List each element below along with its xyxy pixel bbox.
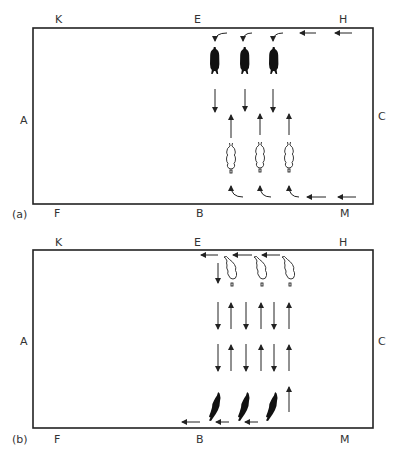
turn-arrow-icon xyxy=(289,186,299,197)
panel-caption: (b) xyxy=(12,433,28,446)
light-rider-icon xyxy=(285,142,294,172)
marker-k: K xyxy=(55,13,63,26)
dark-rider-icon xyxy=(210,47,219,74)
turn-arrow-icon xyxy=(231,186,243,197)
marker-b: B xyxy=(196,433,204,446)
panel-caption: (a) xyxy=(12,208,27,221)
dark-rider-icon xyxy=(269,47,278,74)
marker-c: C xyxy=(378,110,386,123)
marker-c: C xyxy=(378,335,386,348)
turn-arrow-icon xyxy=(260,186,271,197)
marker-e: E xyxy=(194,13,201,26)
marker-f: F xyxy=(54,433,60,446)
light-rider-icon xyxy=(224,257,237,287)
panel-a: K E H A C F B M (a) xyxy=(12,13,386,221)
arena-diagram: K E H A C F B M (a) xyxy=(0,0,400,462)
arena-frame xyxy=(33,28,373,204)
marker-a: A xyxy=(20,114,28,127)
marker-b: B xyxy=(196,207,204,220)
turn-arrow-icon xyxy=(273,33,283,41)
marker-h: H xyxy=(339,13,347,26)
light-rider-icon xyxy=(282,257,295,287)
dark-rider-icon xyxy=(209,392,221,421)
marker-a: A xyxy=(20,335,28,348)
light-rider-icon xyxy=(256,142,265,172)
dark-rider-icon xyxy=(266,392,278,421)
turn-arrow-icon xyxy=(215,33,227,41)
arena-frame xyxy=(33,250,373,428)
marker-e: E xyxy=(194,236,201,249)
panel-b: K E H A C F B M (b) xyxy=(12,236,386,446)
marker-f: F xyxy=(54,207,60,220)
turn-arrow-icon xyxy=(243,33,252,41)
marker-h: H xyxy=(339,236,347,249)
marker-k: K xyxy=(55,236,63,249)
dark-rider-icon xyxy=(240,47,249,74)
dark-rider-icon xyxy=(238,392,250,421)
light-rider-icon xyxy=(227,143,236,173)
marker-m: M xyxy=(340,433,350,446)
marker-m: M xyxy=(340,207,350,220)
light-rider-icon xyxy=(254,257,267,287)
